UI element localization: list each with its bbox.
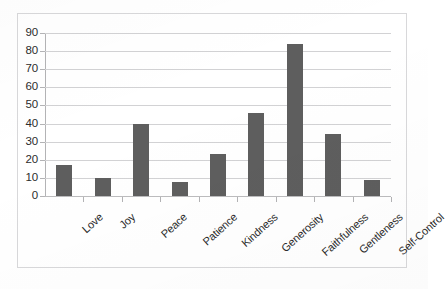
category-tick-0 [83,197,84,202]
value-axis-tick-50 [40,105,45,106]
category-tick-3 [199,197,200,202]
value-axis-tick-label-80: 80 [4,45,38,57]
bar-joy [95,178,111,196]
value-axis-tick-10 [40,178,45,179]
value-axis-labels: 9080706050403020100 [0,0,38,255]
value-axis-tick-label-50: 50 [4,99,38,111]
value-axis-tick-30 [40,142,45,143]
category-tick-1 [122,197,123,202]
bars-group [45,33,391,196]
category-tick-2 [160,197,161,202]
value-axis-tick-label-40: 40 [4,118,38,130]
gridline-0 [45,196,391,197]
value-axis-tick-label-60: 60 [4,81,38,93]
value-axis-tick-80 [40,51,45,52]
bar-generosity [248,113,264,196]
bar-love [56,165,72,196]
value-axis-tick-0 [40,196,45,197]
value-axis-tick-label-10: 10 [4,172,38,184]
value-axis-tick-label-0: 0 [4,190,38,202]
value-axis-tick-label-90: 90 [4,27,38,39]
category-tick-6 [314,197,315,202]
bar-self-control [364,180,380,196]
value-axis-tick-70 [40,69,45,70]
value-axis-tick-40 [40,124,45,125]
plot-area [45,33,391,196]
bar-peace [133,124,149,196]
category-tick-4 [237,197,238,202]
value-axis-tick-60 [40,87,45,88]
bar-gentleness [325,134,341,196]
bar-faithfulness [287,44,303,196]
value-axis-tick-90 [40,33,45,34]
value-axis-tick-label-70: 70 [4,63,38,75]
value-axis-tick-label-30: 30 [4,136,38,148]
bar-patience [172,182,188,196]
category-tick-8 [391,197,392,202]
value-axis-tick-label-20: 20 [4,154,38,166]
bar-kindness [210,154,226,196]
category-tick-5 [276,197,277,202]
category-tick-7 [353,197,354,202]
value-axis-tick-20 [40,160,45,161]
